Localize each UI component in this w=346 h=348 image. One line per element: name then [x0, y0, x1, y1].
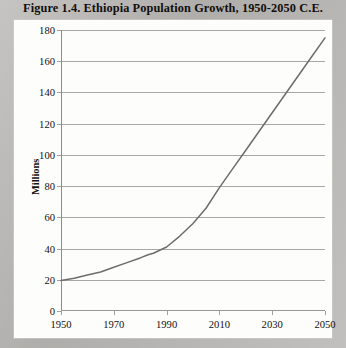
x-tick-mark — [325, 311, 326, 315]
x-tick-mark — [61, 311, 62, 315]
x-tick-mark — [272, 311, 273, 315]
x-tick-label: 2010 — [209, 319, 230, 330]
y-tick-label: 180 — [39, 25, 55, 36]
x-tick-label: 1990 — [156, 319, 177, 330]
x-tick-label: 1950 — [50, 319, 71, 330]
y-tick-label: 160 — [39, 56, 55, 67]
scanned-page-background: Figure 1.4. Ethiopia Population Growth, … — [0, 0, 346, 348]
chart-panel: Millions 0204060801001201401601801950197… — [14, 20, 332, 338]
x-tick-mark — [114, 311, 115, 315]
y-tick-label: 0 — [50, 306, 55, 317]
y-tick-label: 40 — [44, 243, 55, 254]
y-tick-label: 100 — [39, 149, 55, 160]
y-tick-label: 60 — [44, 212, 55, 223]
x-tick-label: 1970 — [103, 319, 124, 330]
x-tick-mark — [219, 311, 220, 315]
y-tick-label: 80 — [44, 181, 55, 192]
x-tick-mark — [167, 311, 168, 315]
y-tick-label: 20 — [44, 274, 55, 285]
figure-title: Figure 1.4. Ethiopia Population Growth, … — [0, 1, 346, 16]
line-series — [61, 30, 325, 311]
y-axis-title: Millions — [30, 159, 41, 195]
x-tick-label: 2050 — [314, 319, 335, 330]
y-tick-label: 120 — [39, 118, 55, 129]
y-tick-label: 140 — [39, 87, 55, 98]
x-tick-label: 2030 — [262, 319, 283, 330]
plot-area: 0204060801001201401601801950197019902010… — [61, 30, 325, 311]
